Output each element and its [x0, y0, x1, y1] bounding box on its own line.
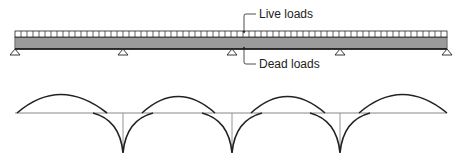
support-triangle-icon: [118, 49, 128, 55]
support-triangle-icon: [10, 49, 20, 55]
continuous-beam-diagram: [0, 0, 459, 161]
span-2-positive-moment-curve: [142, 97, 215, 114]
supports: [10, 49, 452, 55]
span-3-positive-moment-curve: [251, 97, 325, 114]
live-load-leader-line: [244, 14, 256, 33]
span-4-positive-moment-curve: [359, 95, 447, 114]
support-triangle-icon: [442, 49, 452, 55]
dead-loads-label: Dead loads: [259, 58, 320, 70]
span-1-positive-moment-curve: [17, 95, 107, 114]
live-loads-label: Live loads: [259, 8, 313, 20]
load-diagram: [10, 14, 452, 64]
support-triangle-icon: [227, 49, 237, 55]
dead-load-hatching: [17, 37, 445, 49]
moment-diagram: [15, 95, 447, 154]
support-triangle-icon: [335, 49, 345, 55]
